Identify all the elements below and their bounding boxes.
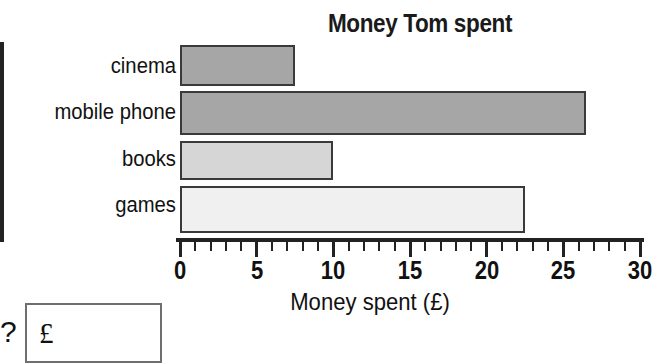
- x-tick-minor-7: [286, 242, 288, 251]
- x-tick-minor-21: [501, 242, 503, 251]
- x-tick-minor-23: [532, 242, 534, 251]
- category-label-mobile-phone: mobile phone: [18, 99, 176, 125]
- x-tick-label-15: 15: [392, 256, 427, 284]
- x-tick-major-30: [639, 242, 642, 257]
- x-tick-minor-11: [348, 242, 350, 251]
- x-tick-minor-28: [608, 242, 610, 251]
- x-tick-minor-26: [578, 242, 580, 251]
- x-tick-minor-3: [225, 242, 227, 251]
- bar-games: [180, 186, 525, 233]
- x-tick-minor-8: [302, 242, 304, 251]
- x-tick-minor-4: [240, 242, 242, 251]
- bar-cinema: [180, 45, 295, 86]
- x-tick-minor-2: [210, 242, 212, 251]
- x-tick-label-0: 0: [162, 256, 197, 284]
- y-axis-line: [0, 42, 4, 242]
- x-tick-minor-27: [593, 242, 595, 251]
- category-label-games: games: [18, 192, 176, 218]
- x-tick-major-10: [332, 242, 335, 257]
- x-tick-major-5: [255, 242, 258, 257]
- category-label-books: books: [18, 146, 176, 172]
- x-tick-label-5: 5: [239, 256, 274, 284]
- x-tick-minor-19: [470, 242, 472, 251]
- x-tick-minor-12: [363, 242, 365, 251]
- x-tick-major-0: [179, 242, 182, 257]
- currency-symbol: £: [39, 316, 54, 350]
- x-tick-minor-9: [317, 242, 319, 251]
- bar-mobile-phone: [180, 91, 586, 135]
- category-label-cinema: cinema: [18, 53, 176, 79]
- x-tick-minor-13: [378, 242, 380, 251]
- x-tick-label-20: 20: [469, 256, 504, 284]
- x-tick-minor-18: [455, 242, 457, 251]
- x-tick-major-15: [409, 242, 412, 257]
- x-tick-minor-29: [624, 242, 626, 251]
- x-tick-minor-16: [424, 242, 426, 251]
- chart-title: Money Tom spent: [312, 8, 528, 38]
- x-tick-minor-6: [271, 242, 273, 251]
- bar-books: [180, 141, 333, 180]
- answer-row: ? £: [0, 301, 200, 362]
- question-mark-label: ?: [0, 315, 17, 349]
- x-axis-title: Money spent (£): [241, 288, 499, 316]
- answer-input-box[interactable]: £: [25, 303, 162, 363]
- x-tick-label-10: 10: [316, 256, 351, 284]
- x-tick-label-25: 25: [546, 256, 581, 284]
- x-tick-major-25: [562, 242, 565, 257]
- x-tick-label-30: 30: [622, 256, 656, 284]
- x-tick-major-20: [485, 242, 488, 257]
- x-tick-minor-17: [440, 242, 442, 251]
- x-tick-minor-1: [194, 242, 196, 251]
- x-tick-minor-14: [394, 242, 396, 251]
- x-tick-minor-24: [547, 242, 549, 251]
- x-tick-minor-22: [516, 242, 518, 251]
